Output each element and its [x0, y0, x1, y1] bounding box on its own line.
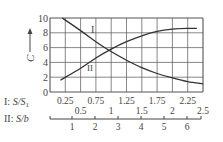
- x-tick-label-secondary: 2: [93, 122, 98, 132]
- chart: 0246810 0.250.751.251.752.250.511.522.5 …: [0, 0, 223, 142]
- x-tick-label-primary: 1.5: [136, 106, 148, 116]
- x-axis-secondary: 123456: [50, 116, 201, 132]
- svg-text:I: S/S1: I: S/S1: [4, 96, 29, 109]
- y-tick-label: 8: [43, 27, 48, 38]
- x-tick-label-primary: 2.25: [179, 96, 196, 106]
- x-tick-label-primary: 1.25: [118, 96, 135, 106]
- x-tick-label-secondary: 3: [116, 122, 121, 132]
- x-tick-label-secondary: 1: [70, 122, 75, 132]
- x-tick-label-primary: 0.5: [75, 106, 87, 116]
- x-axis-primary-ticks: 0.250.751.251.752.250.511.522.5: [57, 96, 209, 116]
- curves: [60, 18, 203, 84]
- curve-I: [62, 18, 203, 84]
- x-tick-label-primary: 2.5: [197, 106, 209, 116]
- y-tick-label: 2: [43, 72, 48, 83]
- arrow-up-icon: [28, 28, 33, 34]
- y-tick-label: 10: [38, 13, 48, 24]
- axis-II-prefix: II: [4, 113, 11, 124]
- x-axis-secondary-label: II: S/b: [4, 113, 29, 124]
- y-axis-title: C: [24, 54, 36, 62]
- svg-text:II: S/b: II: S/b: [4, 113, 29, 124]
- curve-label-I: I: [91, 24, 94, 35]
- axis-I-name: S/S: [13, 96, 26, 107]
- x-tick-label-secondary: 6: [185, 122, 190, 132]
- y-axis-ticks: 0246810: [38, 13, 48, 98]
- y-axis-label: C: [24, 28, 36, 62]
- x-tick-label-primary: 1: [109, 106, 114, 116]
- axis-I-sub: 1: [25, 101, 29, 109]
- x-tick-label-primary: 0.75: [88, 96, 105, 106]
- axis-II-name: S/b: [16, 113, 29, 124]
- curve-label-II: II: [87, 63, 93, 73]
- x-axis-primary-label: I: S/S1: [4, 96, 29, 109]
- y-tick-label: 4: [43, 57, 48, 68]
- y-tick-label: 6: [43, 42, 48, 53]
- x-tick-label-primary: 1.75: [149, 96, 166, 106]
- x-tick-label-secondary: 4: [139, 122, 144, 132]
- y-tick-label: 0: [43, 87, 48, 98]
- x-tick-label-primary: 0.25: [57, 96, 74, 106]
- x-tick-label-secondary: 5: [162, 122, 167, 132]
- x-tick-label-primary: 2: [170, 106, 175, 116]
